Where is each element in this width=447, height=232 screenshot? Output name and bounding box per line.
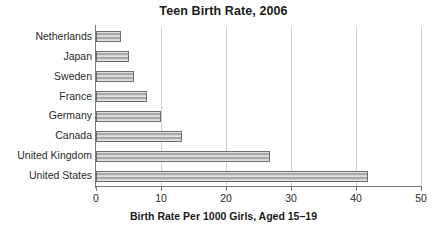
x-tick-mark-20: [226, 186, 227, 191]
y-tick-label-japan: Japan: [0, 50, 92, 62]
x-tick-mark-30: [291, 186, 292, 191]
bar-row: [96, 126, 421, 146]
x-tick-label-10: 10: [148, 192, 174, 204]
y-tick-label-france: France: [0, 90, 92, 102]
x-axis-title: Birth Rate Per 1000 Girls, Aged 15–19: [0, 210, 447, 222]
x-tick-label-30: 30: [278, 192, 304, 204]
y-tick-label-germany: Germany: [0, 109, 92, 121]
bar-canada: [96, 131, 182, 142]
bar-row: [96, 47, 421, 67]
y-tick-label-united-kingdom: United Kingdom: [0, 149, 92, 161]
x-tick-label-40: 40: [343, 192, 369, 204]
bar-sweden: [96, 71, 134, 82]
bar-row: [96, 166, 421, 186]
chart-figure: Teen Birth Rate, 2006 NetherlandsJapanSw…: [0, 0, 447, 232]
x-tick-label-50: 50: [408, 192, 434, 204]
bar-united-states: [96, 171, 368, 182]
bar-germany: [96, 111, 161, 122]
bar-row: [96, 27, 421, 47]
x-axis-line: [96, 186, 422, 187]
plot-area: [96, 27, 421, 186]
gridline-50: [421, 27, 422, 186]
x-tick-mark-50: [421, 186, 422, 191]
bar-row: [96, 107, 421, 127]
y-tick-label-sweden: Sweden: [0, 70, 92, 82]
bar-united-kingdom: [96, 151, 270, 162]
y-tick-label-united-states: United States: [0, 169, 92, 181]
chart-title: Teen Birth Rate, 2006: [0, 4, 447, 18]
bar-france: [96, 91, 147, 102]
x-tick-mark-0: [96, 186, 97, 191]
bar-japan: [96, 51, 129, 62]
y-axis-category-labels: NetherlandsJapanSwedenFranceGermanyCanad…: [0, 27, 92, 186]
y-tick-label-netherlands: Netherlands: [0, 30, 92, 42]
y-tick-label-canada: Canada: [0, 129, 92, 141]
x-tick-label-0: 0: [83, 192, 109, 204]
bar-row: [96, 87, 421, 107]
bar-row: [96, 146, 421, 166]
x-tick-mark-10: [161, 186, 162, 191]
x-tick-mark-40: [356, 186, 357, 191]
x-tick-label-20: 20: [213, 192, 239, 204]
bar-row: [96, 67, 421, 87]
bar-netherlands: [96, 31, 121, 42]
